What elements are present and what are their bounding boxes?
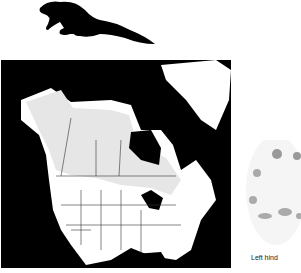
- paw-track-icon: [241, 140, 301, 250]
- track-caption: Left hind: [251, 254, 278, 261]
- range-map: [1, 60, 231, 268]
- north-america-map: [1, 60, 231, 268]
- animal-silhouette-icon: [30, 0, 160, 50]
